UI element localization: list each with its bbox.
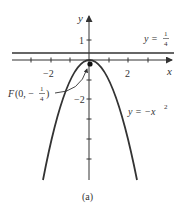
focus-label: F (0, − 1 4 ) xyxy=(7,85,49,103)
svg-text:): ) xyxy=(46,88,49,100)
svg-text:(0, −: (0, − xyxy=(15,88,34,100)
parabola-label: y = −x 2 xyxy=(127,103,168,117)
focus-point xyxy=(87,61,92,66)
svg-text:F: F xyxy=(7,88,15,99)
focus-pointer-arrow xyxy=(55,69,87,93)
x-tick-label-neg2: −2 xyxy=(43,68,54,79)
svg-text:4: 4 xyxy=(40,95,44,103)
figure-caption: (a) xyxy=(82,191,93,203)
svg-text:y =: y = xyxy=(143,33,158,44)
svg-text:4: 4 xyxy=(164,40,168,48)
y-axis-label: y xyxy=(77,12,83,24)
parabola-curve xyxy=(43,60,137,180)
y-tick-label-1: 1 xyxy=(79,35,84,46)
parabola-diagram: y x −2 2 1 −2 y = 1 4 F (0, − 1 4 ) y = … xyxy=(0,0,193,212)
x-tick-label-2: 2 xyxy=(125,68,130,79)
svg-text:y = −x: y = −x xyxy=(127,106,156,117)
svg-text:1: 1 xyxy=(40,85,44,93)
y-tick-label-neg2: −2 xyxy=(74,94,85,105)
svg-text:2: 2 xyxy=(164,103,168,111)
x-axis-label: x xyxy=(166,65,172,77)
directrix-label: y = 1 4 xyxy=(143,30,169,48)
svg-text:1: 1 xyxy=(164,30,168,38)
